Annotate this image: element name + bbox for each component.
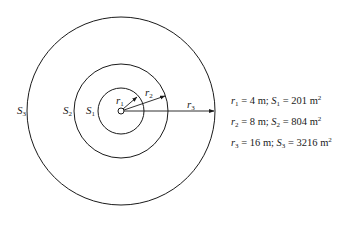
radius-r1-arrow xyxy=(123,97,137,109)
s1-label: S1 xyxy=(86,104,96,118)
r1-label: r1 xyxy=(116,94,124,108)
legend-row-3: r3 = 16 m; S3 = 3216 m2 xyxy=(231,133,332,154)
legend-row-2: r2 = 8 m; S2 = 804 m2 xyxy=(231,112,332,133)
s2-label: S2 xyxy=(63,104,73,118)
s3-label: S3 xyxy=(17,104,27,118)
r3-label: r3 xyxy=(187,98,195,112)
legend-row-1: r1 = 4 m; S1 = 201 m2 xyxy=(231,91,332,112)
values-legend: r1 = 4 m; S1 = 201 m2 r2 = 8 m; S2 = 804… xyxy=(231,91,332,154)
r2-label: r2 xyxy=(145,86,153,100)
